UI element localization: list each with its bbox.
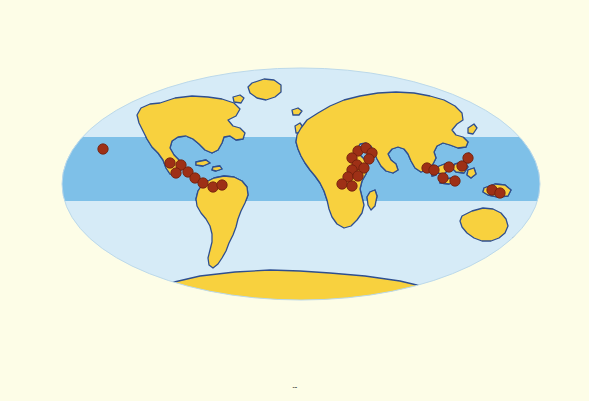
pacific-ocean-site: [98, 144, 108, 154]
sri-lanka-site: [429, 165, 439, 175]
sumatra-site: [444, 162, 454, 172]
java-site: [438, 173, 448, 183]
panama-site: [198, 178, 208, 188]
colombia-site: [208, 182, 218, 192]
west-mexico-site: [165, 158, 175, 168]
figure-panel: ü: [0, 0, 589, 401]
venezuela-site: [217, 180, 227, 190]
malawi-site: [347, 181, 357, 191]
arctic-island: [233, 95, 244, 103]
new-guinea-east-site: [495, 188, 505, 198]
ocean-layer: [0, 0, 589, 401]
sulawesi-site: [450, 176, 460, 186]
world-map: [0, 0, 589, 401]
south-mexico-site: [171, 168, 181, 178]
tanzania-site: [353, 171, 363, 181]
philippines-site: [463, 153, 473, 163]
zambia-site: [337, 179, 347, 189]
